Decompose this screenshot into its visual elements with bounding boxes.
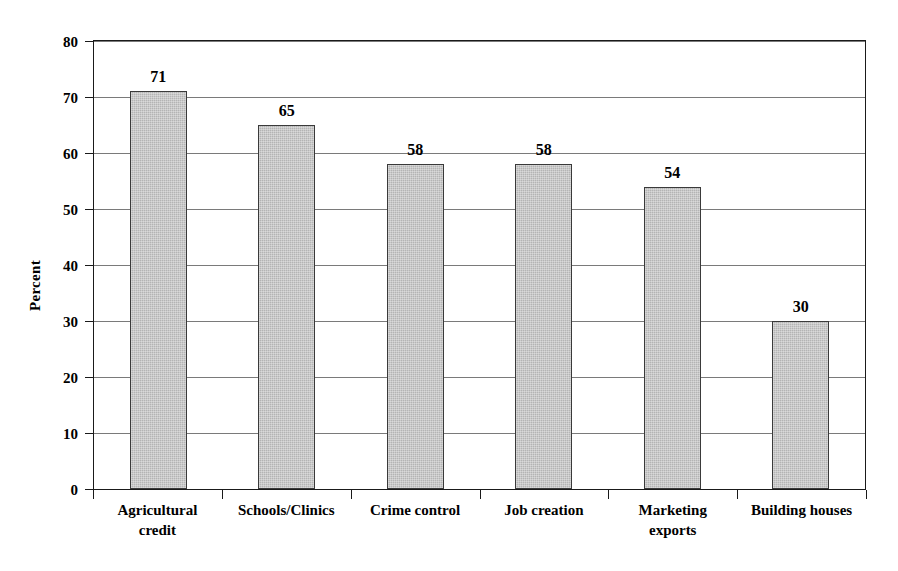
bar-value-label: 58 bbox=[536, 142, 552, 158]
y-axis-tick: 30 bbox=[85, 321, 94, 322]
bar-slot: 71 bbox=[94, 41, 223, 489]
y-axis-tick: 80 bbox=[85, 41, 94, 42]
x-axis-tick bbox=[480, 490, 481, 499]
y-axis-tick-label: 40 bbox=[63, 259, 78, 274]
bar-value-label: 58 bbox=[407, 142, 423, 158]
x-axis-category-label-line: exports bbox=[610, 520, 735, 540]
x-axis-category-label: Marketingexports bbox=[608, 500, 737, 541]
x-axis-tick bbox=[93, 490, 94, 499]
x-axis-category-label: Crime control bbox=[351, 500, 480, 541]
bar-value-label: 30 bbox=[793, 299, 809, 315]
bar-slot: 30 bbox=[737, 41, 866, 489]
bar[interactable]: 54 bbox=[644, 187, 701, 489]
bar[interactable]: 58 bbox=[387, 164, 444, 489]
y-axis-tick-label: 0 bbox=[71, 483, 79, 498]
y-axis-tick: 10 bbox=[85, 433, 94, 434]
x-axis-tick bbox=[866, 490, 867, 499]
x-axis-category-label: Agriculturalcredit bbox=[93, 500, 222, 541]
x-axis-tick bbox=[351, 490, 352, 499]
y-axis-tick: 70 bbox=[85, 97, 94, 98]
x-axis-tick bbox=[737, 490, 738, 499]
y-axis-tick-label: 50 bbox=[63, 203, 78, 218]
bar-slot: 54 bbox=[608, 41, 737, 489]
x-axis-category-label-line: Job creation bbox=[481, 500, 606, 520]
bar-slot: 65 bbox=[223, 41, 352, 489]
x-axis-category-label-line: Crime control bbox=[353, 500, 478, 520]
y-axis-title: Percent bbox=[20, 0, 50, 571]
x-axis-category-label-line: credit bbox=[95, 520, 220, 540]
bars-layer: 716558585430 bbox=[94, 41, 865, 489]
y-axis-title-text: Percent bbox=[27, 260, 44, 311]
bar[interactable]: 30 bbox=[772, 321, 829, 489]
x-axis-tick bbox=[608, 490, 609, 499]
y-axis-tick-label: 30 bbox=[63, 315, 78, 330]
x-axis-ticks bbox=[93, 490, 866, 500]
bar[interactable]: 71 bbox=[130, 91, 187, 489]
x-axis-category-label: Building houses bbox=[737, 500, 866, 541]
x-axis-category-label-line: Agricultural bbox=[95, 500, 220, 520]
y-axis-tick: 50 bbox=[85, 209, 94, 210]
gridline bbox=[94, 489, 865, 490]
y-axis-tick: 0 bbox=[85, 489, 94, 490]
y-axis-tick-label: 20 bbox=[63, 371, 78, 386]
x-axis-category-label-line: Marketing bbox=[610, 500, 735, 520]
bar-value-label: 71 bbox=[150, 69, 166, 85]
bar-slot: 58 bbox=[480, 41, 609, 489]
x-axis-category-label: Job creation bbox=[479, 500, 608, 541]
y-axis-tick-label: 60 bbox=[63, 147, 78, 162]
x-axis-labels: AgriculturalcreditSchools/ClinicsCrime c… bbox=[93, 500, 866, 541]
x-axis-category-label-line: Schools/Clinics bbox=[224, 500, 349, 520]
x-axis-tick bbox=[222, 490, 223, 499]
y-axis-tick-label: 70 bbox=[63, 91, 78, 106]
bar-chart-figure: Percent 01020304050607080 716558585430 A… bbox=[0, 0, 898, 571]
y-axis-tick: 20 bbox=[85, 377, 94, 378]
bar[interactable]: 58 bbox=[515, 164, 572, 489]
y-axis-tick-label: 10 bbox=[63, 427, 78, 442]
x-axis-category-label-line: Building houses bbox=[739, 500, 864, 520]
y-axis-tick: 60 bbox=[85, 153, 94, 154]
bar[interactable]: 65 bbox=[258, 125, 315, 489]
y-axis-tick-label: 80 bbox=[63, 35, 78, 50]
bar-value-label: 65 bbox=[279, 103, 295, 119]
plot-area: 01020304050607080 716558585430 bbox=[93, 40, 866, 490]
x-axis-category-label: Schools/Clinics bbox=[222, 500, 351, 541]
bar-value-label: 54 bbox=[664, 165, 680, 181]
y-axis-tick: 40 bbox=[85, 265, 94, 266]
bar-slot: 58 bbox=[351, 41, 480, 489]
